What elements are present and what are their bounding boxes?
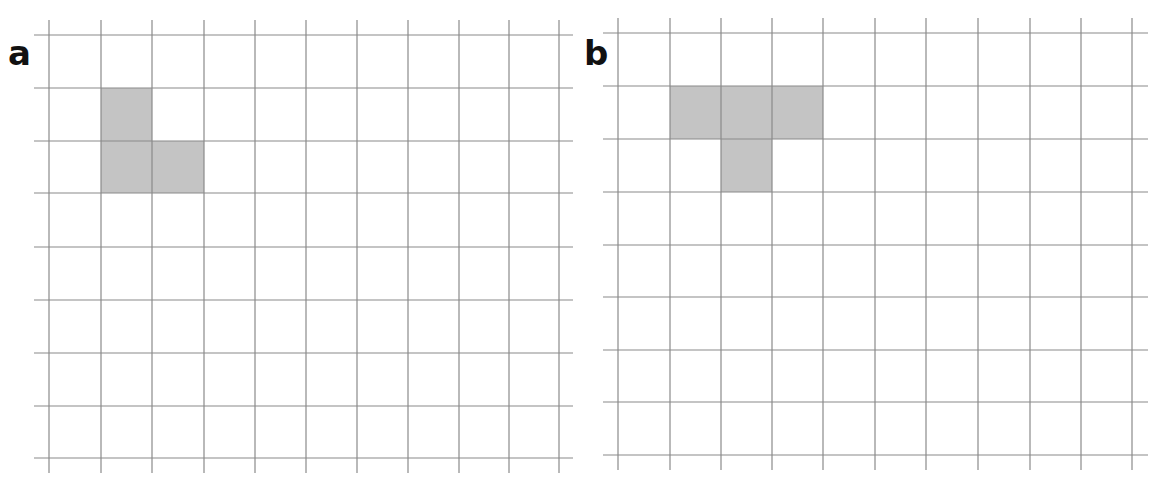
shaded-cell	[772, 86, 823, 139]
grid-diagram	[0, 0, 1168, 483]
shaded-cell	[670, 86, 721, 139]
grid-panel-a	[34, 20, 573, 473]
shaded-cell	[152, 141, 204, 193]
shaded-cell	[101, 141, 152, 193]
shaded-cell	[101, 88, 152, 141]
shaded-cell	[721, 139, 772, 192]
grid-panel-b	[603, 18, 1148, 470]
shaded-cell	[721, 86, 772, 139]
